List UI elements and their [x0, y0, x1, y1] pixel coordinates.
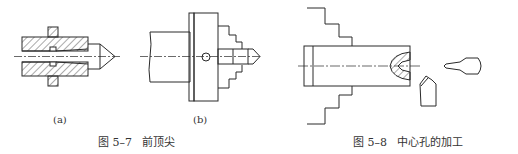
drawing-canvas [0, 0, 518, 154]
figure-5-8-caption: 图 5–8 中心孔的加工 [353, 133, 463, 149]
front-center-a-drawing [14, 27, 120, 86]
subfigure-b-label: (b) [193, 114, 207, 125]
front-center-b-drawing [140, 13, 262, 101]
center-hole-machining-drawing [298, 8, 481, 124]
figure-5-7-caption: 图 5–7 前顶尖 [98, 133, 175, 149]
subfigure-a-label: (a) [53, 114, 67, 125]
